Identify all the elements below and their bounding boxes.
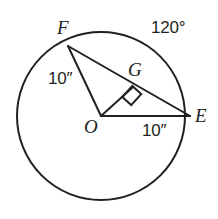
geometry-figure: F G E O 120° 10″ 10″ [0,0,218,219]
point-label-o: O [84,117,98,136]
radius-oe-measure-label: 10″ [142,122,166,139]
point-label-e: E [195,106,207,125]
radius-of-measure-label: 10″ [48,70,72,87]
point-label-f: F [57,18,69,37]
point-label-g: G [128,60,142,79]
chord-fe [68,46,190,116]
arc-angle-label: 120° [151,19,185,36]
